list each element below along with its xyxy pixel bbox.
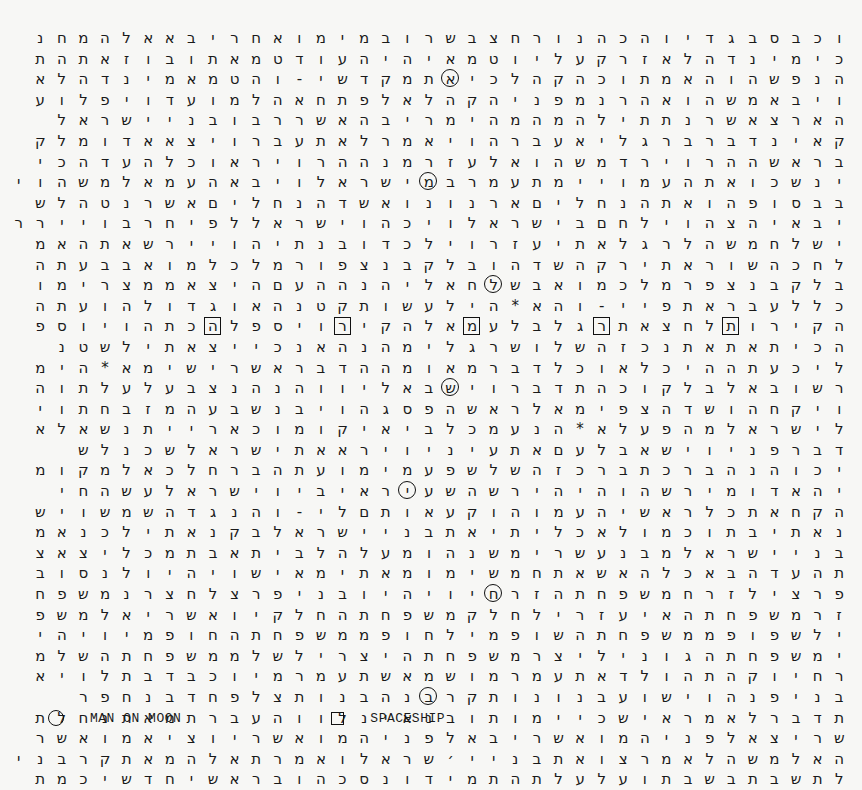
grid-letter: ר: [720, 296, 742, 317]
grid-letter: ק: [828, 131, 850, 152]
grid-letter: ת: [569, 378, 591, 399]
grid-letter: ל: [418, 275, 440, 296]
grid-letter: ת: [656, 769, 678, 790]
grid-letter: ל: [699, 749, 721, 770]
grid-letter: נ: [375, 152, 397, 173]
grid-letter: ה: [742, 563, 764, 584]
grid-letter: ש: [764, 605, 786, 626]
grid-letter: נ: [353, 275, 375, 296]
grid-letter: נ: [612, 193, 634, 214]
grid-letter: י: [224, 337, 246, 358]
grid-letter: ה: [699, 90, 721, 111]
grid-letter: ה: [634, 481, 656, 502]
grid-letter: י: [181, 419, 203, 440]
grid-letter: ת: [159, 337, 181, 358]
grid-letter: נ: [807, 69, 829, 90]
grid-letter: נ: [116, 584, 138, 605]
grid-letter: א: [677, 69, 699, 90]
grid-letter: ג: [677, 646, 699, 667]
grid-letter: ה: [94, 481, 116, 502]
grid-letter: ד: [742, 131, 764, 152]
grid-letter: מ: [73, 605, 95, 626]
grid-letter: ע: [461, 152, 483, 173]
grid-letter: ת: [159, 316, 181, 337]
grid-letter: מ: [397, 460, 419, 481]
grid-letter: ל: [785, 749, 807, 770]
grid-letter: נ: [289, 337, 311, 358]
grid-letter: כ: [181, 316, 203, 337]
grid-letter: כ: [569, 522, 591, 543]
grid-letter: פ: [245, 316, 267, 337]
grid-letter: ה: [353, 152, 375, 173]
grid-letter: נ: [29, 749, 51, 770]
grid-letter: ע: [526, 234, 548, 255]
grid-letter: נ: [612, 543, 634, 564]
grid-letter: י: [828, 481, 850, 502]
grid-letter: ה: [353, 358, 375, 379]
grid-letter: ש: [526, 213, 548, 234]
grid-letter: ל: [828, 358, 850, 379]
grid-letter: נ: [505, 749, 527, 770]
grid-letter: ה: [440, 543, 462, 564]
grid-letter: ת: [289, 687, 311, 708]
grid-letter: ב: [181, 378, 203, 399]
grid-letter: מ: [397, 131, 419, 152]
grid-letter: י: [159, 358, 181, 379]
grid-letter: פ: [699, 275, 721, 296]
grid-letter: ב: [807, 440, 829, 461]
grid-letter: ל: [440, 625, 462, 646]
grid-letter: ר: [202, 419, 224, 440]
grid-letter: ה: [699, 358, 721, 379]
grid-letter: צ: [612, 749, 634, 770]
grid-letter: ר: [267, 749, 289, 770]
grid-letter: ר: [807, 152, 829, 173]
grid-letter: ב: [116, 399, 138, 420]
grid-letter: ו: [202, 152, 224, 173]
grid-letter: נ: [310, 234, 332, 255]
grid-letter: י: [181, 234, 203, 255]
grid-letter: מ: [569, 90, 591, 111]
grid-letter: ח: [742, 646, 764, 667]
grid-letter: י: [224, 193, 246, 214]
grid-letter: י: [310, 646, 332, 667]
grid-letter: ל: [440, 419, 462, 440]
grid-letter: ו: [505, 49, 527, 70]
grid-row: בניפנהוישועבנונותקרבנהבנותצלפחדבנחפר: [24, 687, 850, 708]
grid-letter: ש: [332, 522, 354, 543]
grid-letter: ש: [569, 152, 591, 173]
grid-letter: ת: [353, 563, 375, 584]
grid-letter: ו: [267, 502, 289, 523]
grid-letter: י: [785, 337, 807, 358]
grid-letter: כ: [828, 49, 850, 70]
grid-letter: י: [656, 152, 678, 173]
grid-letter: ת: [29, 49, 51, 70]
grid-letter: א: [483, 213, 505, 234]
grid-letter: א: [785, 481, 807, 502]
grid-letter: י: [828, 460, 850, 481]
grid-letter: פ: [764, 625, 786, 646]
grid-letter: מ: [94, 584, 116, 605]
grid-letter: א: [656, 708, 678, 729]
grid-letter: י: [375, 49, 397, 70]
grid-letter: ו: [440, 213, 462, 234]
grid-letter: נ: [634, 646, 656, 667]
grid-letter: ב: [828, 152, 850, 173]
grid-letter: ע: [505, 419, 527, 440]
grid-letter: ק: [29, 131, 51, 152]
grid-letter: ס: [73, 563, 95, 584]
grid-letter: -: [289, 502, 311, 523]
grid-letter: ו: [418, 563, 440, 584]
grid-letter: י: [720, 440, 742, 461]
grid-letter: ו: [224, 131, 246, 152]
grid-letter: צ: [764, 110, 786, 131]
grid-letter: ה: [245, 275, 267, 296]
grid-letter: ב: [461, 28, 483, 49]
grid-letter: ר: [245, 728, 267, 749]
grid-letter: ר: [548, 543, 570, 564]
grid-letter: ה: [159, 502, 181, 523]
grid-letter: ב: [159, 687, 181, 708]
grid-letter: מ: [397, 358, 419, 379]
grid-letter: ה: [267, 460, 289, 481]
grid-letter: נ: [202, 522, 224, 543]
grid-letter: פ: [94, 90, 116, 111]
